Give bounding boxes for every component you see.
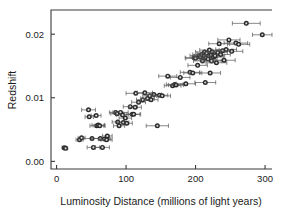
data-point bbox=[146, 123, 168, 128]
y-tick-label: 0.01 bbox=[26, 92, 45, 103]
marker-inner bbox=[167, 75, 169, 77]
data-point bbox=[195, 80, 216, 85]
data-point bbox=[95, 145, 109, 150]
data-point bbox=[159, 74, 177, 79]
data-point bbox=[180, 70, 199, 75]
data-point bbox=[228, 42, 250, 47]
marker-inner bbox=[238, 43, 240, 45]
marker-inner bbox=[210, 60, 212, 62]
axis-tick-labels: 01002003000.000.010.02 bbox=[26, 29, 273, 184]
marker-inner bbox=[95, 115, 97, 117]
data-point bbox=[85, 114, 93, 119]
marker-inner bbox=[65, 147, 67, 149]
redshift-luminosity-distance-figure: 01002003000.000.010.02 Luminosity Distan… bbox=[0, 0, 297, 215]
marker-inner bbox=[138, 101, 140, 103]
x-tick-label: 0 bbox=[54, 173, 59, 184]
marker-inner bbox=[245, 22, 247, 24]
marker-inner bbox=[142, 99, 144, 101]
marker-inner bbox=[126, 122, 128, 124]
marker-inner bbox=[134, 106, 136, 108]
data-point bbox=[232, 21, 260, 26]
marker-inner bbox=[101, 146, 103, 148]
data-point bbox=[184, 70, 202, 75]
marker-inner bbox=[218, 43, 220, 45]
marker-inner bbox=[88, 116, 90, 118]
data-point bbox=[171, 75, 190, 80]
y-tick-label: 0.00 bbox=[26, 156, 45, 167]
data-point bbox=[82, 107, 96, 112]
data-points-layer bbox=[62, 21, 272, 151]
data-point bbox=[253, 32, 272, 37]
marker-inner bbox=[261, 34, 263, 36]
data-point bbox=[91, 113, 101, 118]
marker-inner bbox=[197, 64, 199, 66]
scatter-plot-canvas: 01002003000.000.010.02 Luminosity Distan… bbox=[0, 0, 297, 215]
marker-inner bbox=[220, 53, 222, 55]
marker-inner bbox=[228, 39, 230, 41]
marker-inner bbox=[215, 62, 217, 64]
marker-inner bbox=[144, 92, 146, 94]
marker-inner bbox=[150, 99, 152, 101]
marker-inner bbox=[231, 50, 233, 52]
marker-inner bbox=[185, 83, 187, 85]
marker-inner bbox=[81, 137, 83, 139]
x-tick-label: 100 bbox=[118, 173, 134, 184]
marker-inner bbox=[214, 55, 216, 57]
data-point bbox=[209, 41, 230, 46]
marker-inner bbox=[192, 72, 194, 74]
x-tick-label: 300 bbox=[257, 173, 273, 184]
marker-inner bbox=[161, 95, 163, 97]
marker-inner bbox=[124, 117, 126, 119]
marker-inner bbox=[225, 48, 227, 50]
y-tick-label: 0.02 bbox=[26, 29, 45, 40]
marker-inner bbox=[106, 139, 108, 141]
marker-inner bbox=[209, 72, 211, 74]
marker-inner bbox=[223, 59, 225, 61]
x-tick-label: 200 bbox=[188, 173, 204, 184]
marker-inner bbox=[122, 114, 124, 116]
marker-inner bbox=[149, 95, 151, 97]
marker-inner bbox=[106, 135, 108, 137]
marker-inner bbox=[118, 125, 120, 127]
y-axis-title: Redshift bbox=[6, 71, 18, 110]
marker-inner bbox=[156, 125, 158, 127]
data-point bbox=[200, 70, 221, 75]
plot-frame bbox=[51, 10, 272, 169]
x-axis-title: Luminosity Distance (millions of light y… bbox=[60, 195, 261, 207]
data-point bbox=[63, 146, 68, 151]
data-point bbox=[188, 63, 207, 68]
marker-inner bbox=[87, 109, 89, 111]
marker-inner bbox=[99, 125, 101, 127]
marker-inner bbox=[92, 146, 94, 148]
marker-inner bbox=[179, 76, 181, 78]
marker-inner bbox=[204, 81, 206, 83]
marker-inner bbox=[133, 113, 135, 115]
marker-inner bbox=[135, 92, 137, 94]
